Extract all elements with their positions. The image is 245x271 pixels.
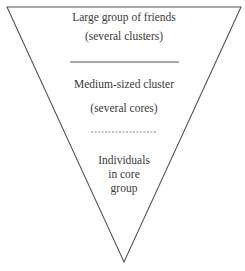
funnel-diagram: Large group of friends (several clusters…	[0, 0, 245, 271]
level-2-line-2: (several cores)	[90, 102, 158, 115]
level-3-line-2: in core	[108, 168, 140, 180]
level-1-line-1: Large group of friends	[72, 11, 176, 24]
level-medium-cluster: Medium-sized cluster (several cores)	[74, 78, 174, 115]
level-1-line-2: (several clusters)	[85, 30, 163, 43]
level-3-line-3: group	[111, 182, 138, 195]
level-core-group: Individuals in core group	[98, 154, 150, 195]
level-2-line-1: Medium-sized cluster	[74, 78, 174, 90]
level-3-line-1: Individuals	[98, 154, 150, 166]
inverted-triangle-outline	[7, 7, 241, 262]
level-large-group: Large group of friends (several clusters…	[72, 11, 176, 43]
